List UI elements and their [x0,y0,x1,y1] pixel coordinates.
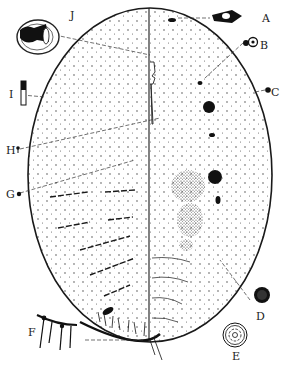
detail-d-spiracle [254,287,270,303]
detail-h-seta [16,146,20,153]
scale-insect-diagram [0,0,287,365]
label-j: J [70,10,74,21]
label-b: B [260,40,268,51]
detail-b-pore [243,38,258,47]
detail-i-tube [21,81,26,105]
detail-f-setae [37,315,77,350]
detail-e-multilocular-pore [223,323,247,347]
label-g: G [6,189,15,200]
detail-j-structure [17,20,59,54]
label-h: H [6,145,16,156]
label-c: C [271,87,279,98]
label-d: D [256,311,265,322]
detail-g-seta [17,192,21,196]
insect-body [28,8,272,342]
label-f: F [28,327,36,338]
label-i: I [9,89,13,100]
detail-a-duct [212,10,242,23]
label-a: A [262,13,270,24]
label-e: E [232,351,240,362]
detail-c-pore [265,87,271,93]
